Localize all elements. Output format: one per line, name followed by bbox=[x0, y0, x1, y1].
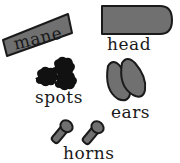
parts-illustration bbox=[0, 0, 180, 163]
spots-label: spots bbox=[35, 89, 83, 106]
ears-label: ears bbox=[111, 104, 150, 121]
spots-shape bbox=[35, 57, 77, 91]
head-shape bbox=[102, 6, 172, 34]
horns-label: horns bbox=[63, 145, 114, 162]
worksheet-canvas: mane head spots ears horns bbox=[0, 0, 180, 163]
ears-shape bbox=[107, 59, 145, 100]
head-label: head bbox=[107, 36, 151, 53]
